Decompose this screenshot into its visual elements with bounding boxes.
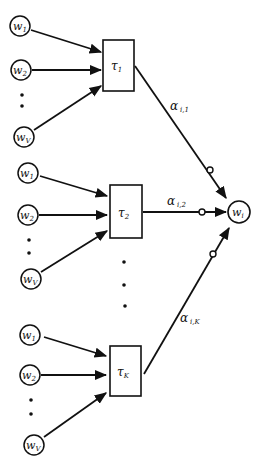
edge-w1-tauk bbox=[44, 337, 106, 356]
topic-box-tauk: τK bbox=[110, 346, 141, 396]
input-node-w1: w1 bbox=[20, 325, 40, 345]
topic-box-tau2: τ2 bbox=[110, 185, 142, 238]
edge-tauk-wi bbox=[144, 228, 229, 374]
ellipsis-dot bbox=[122, 283, 126, 287]
group-1: w1 w2 wV τ1 αi,1 bbox=[10, 16, 226, 198]
ellipsis-dot bbox=[122, 260, 126, 264]
ellipsis-dot bbox=[20, 93, 24, 97]
edge-label-alpha-ik: αi,K bbox=[180, 311, 201, 326]
weight-node-icon bbox=[210, 251, 216, 257]
ellipsis-dot bbox=[27, 238, 31, 242]
edge-label-alpha-i1: αi,1 bbox=[170, 99, 189, 114]
input-node-wv: wV bbox=[24, 435, 44, 455]
topic-network-diagram: w1 w2 wV τ1 αi,1 w1 bbox=[0, 0, 261, 465]
input-node-wv: wV bbox=[21, 269, 41, 289]
edge-w1-tau1 bbox=[31, 30, 101, 52]
ellipsis-dot bbox=[27, 251, 31, 255]
ellipsis-dot bbox=[29, 412, 33, 416]
ellipsis-dot bbox=[29, 398, 33, 402]
ellipsis-dot bbox=[20, 104, 24, 108]
edge-wv-tau1 bbox=[34, 86, 101, 130]
group-2: w1 w2 wV τ2 αi,2 bbox=[18, 163, 226, 289]
input-node-w2: w2 bbox=[11, 60, 31, 80]
input-node-w1: w1 bbox=[18, 163, 38, 183]
input-node-w2: w2 bbox=[20, 365, 40, 385]
ellipsis-dot bbox=[123, 304, 127, 308]
edge-wv-tauk bbox=[44, 393, 106, 437]
edge-label-alpha-i2: αi,2 bbox=[167, 194, 187, 209]
weight-node-icon bbox=[207, 167, 213, 173]
edge-wv-tau2 bbox=[41, 231, 107, 272]
input-node-wv: wV bbox=[14, 127, 34, 147]
topic-box-tau1: τ1 bbox=[103, 40, 134, 91]
edge-tau1-wi bbox=[135, 66, 226, 198]
output-node-wi: wi bbox=[228, 201, 250, 223]
input-node-w1: w1 bbox=[10, 16, 30, 36]
input-node-w2: w2 bbox=[18, 205, 38, 225]
edge-w1-tau2 bbox=[40, 176, 107, 196]
weight-node-icon bbox=[199, 209, 205, 215]
